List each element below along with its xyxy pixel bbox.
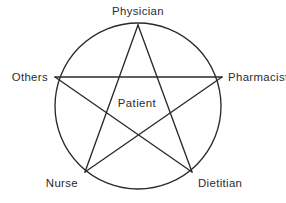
node-label-nurse: Nurse — [46, 177, 78, 189]
node-label-others: Others — [12, 71, 48, 83]
node-label-physician: Physician — [112, 5, 164, 17]
edge-pharmacist-nurse — [85, 77, 222, 172]
center-label-patient: Patient — [118, 97, 157, 109]
diagram-canvas: PhysicianPharmacistDietitianNurseOthers … — [0, 0, 286, 203]
node-label-pharmacist: Pharmacist — [228, 71, 286, 83]
edge-dietitian-others — [55, 77, 192, 172]
node-label-dietitian: Dietitian — [198, 177, 242, 189]
pentagram-diagram: PhysicianPharmacistDietitianNurseOthers … — [0, 0, 286, 203]
